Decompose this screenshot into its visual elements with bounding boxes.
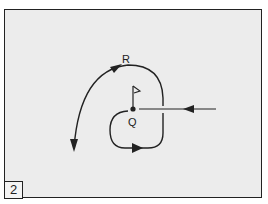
flag-Q [130,86,140,112]
label-Q: Q [128,116,137,128]
label-R: R [122,53,130,65]
approach-line [139,105,216,113]
panel-number: 2 [4,181,23,199]
path-diagram: R Q [0,0,268,204]
arc-path-R [70,64,163,152]
